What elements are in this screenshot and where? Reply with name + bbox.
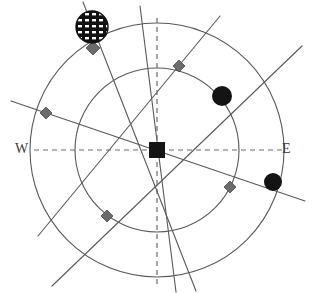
skyplot-canvas <box>0 0 312 293</box>
diamond-marker-5 <box>224 181 236 193</box>
station-marker <box>149 142 165 158</box>
solid-circle-marker-1 <box>212 86 232 106</box>
west-label: W <box>15 141 29 157</box>
skyplot-figure: W E <box>0 0 312 293</box>
ray-line-5 <box>38 16 220 236</box>
solid-circle-marker-2 <box>264 173 282 191</box>
solid-circle-markers <box>212 86 282 191</box>
ray-line-1 <box>83 2 196 291</box>
diamond-marker-3 <box>40 107 52 119</box>
east-label: E <box>282 141 291 157</box>
diamond-markers <box>40 41 236 222</box>
checkered-circle-marker <box>76 11 108 43</box>
